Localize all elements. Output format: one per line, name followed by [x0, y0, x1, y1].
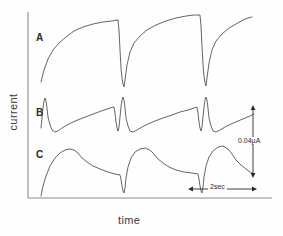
figure-container: current time A B C 0.04µA 2sec [0, 0, 283, 236]
trace-line-b [41, 97, 254, 132]
trace-label-b: B [36, 107, 43, 118]
trace-line-a [41, 15, 252, 87]
y-axis-label: current [7, 82, 19, 142]
trace-label-a: A [36, 32, 43, 43]
trace-label-c: C [36, 149, 43, 160]
x-axis-label: time [118, 214, 140, 226]
vertical-scale-bar-label: 0.04µA [237, 137, 261, 144]
horizontal-scale-bar-label: 2sec [208, 183, 227, 190]
